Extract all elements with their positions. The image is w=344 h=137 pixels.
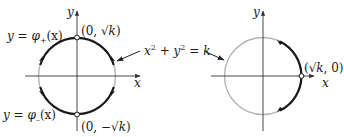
equation-label: x2 + y2 = k xyxy=(144,43,210,58)
right-figure: y x (√k, 0) xyxy=(211,5,344,131)
lower-curve-label: y = φ–(x) xyxy=(2,108,56,124)
top-point-label: (0, √k) xyxy=(81,24,121,38)
pointer-arrow-left xyxy=(117,51,140,61)
point-label: (√k, 0) xyxy=(304,61,344,75)
equation-label-group: x2 + y2 = k xyxy=(117,43,224,61)
open-point-bottom xyxy=(75,112,80,117)
y-axis-label: y xyxy=(252,5,260,19)
open-point-top xyxy=(75,35,80,40)
left-figure: y x y = φ+(x) y = φ–(x) (0, √k) (0, −√k) xyxy=(2,5,141,134)
bottom-point-label: (0, −√k) xyxy=(81,120,131,134)
x-axis-label: x xyxy=(134,76,141,90)
upper-curve-label: y = φ+(x) xyxy=(6,29,63,45)
implicit-function-diagram: y x y = φ+(x) y = φ–(x) (0, √k) (0, −√k)… xyxy=(0,0,344,137)
x-axis-label: x xyxy=(322,76,329,90)
y-axis-label: y xyxy=(66,5,74,19)
